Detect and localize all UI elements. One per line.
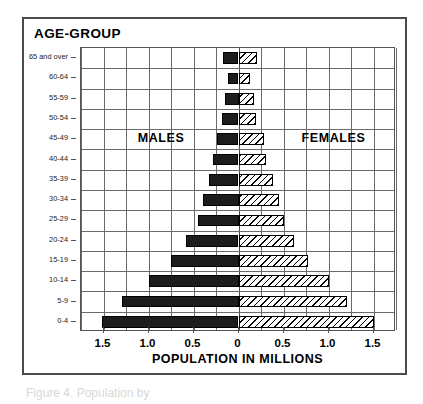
bar-female-60-64 bbox=[239, 73, 251, 85]
bar-male-35-39 bbox=[209, 174, 239, 186]
bar-male-25-29 bbox=[198, 215, 239, 227]
y-axis-label-5-9: 5-9 bbox=[57, 297, 68, 305]
y-axis-label-65-and-over: 65 and over bbox=[29, 53, 68, 61]
y-axis-age-group-labels: 65 and over60-6455-5950-5445-4940-4435-3… bbox=[24, 47, 76, 331]
bar-female-55-59 bbox=[239, 93, 254, 105]
bar-male-5-9 bbox=[122, 296, 239, 308]
y-axis-tick bbox=[71, 219, 76, 220]
y-axis-label-50-54: 50-54 bbox=[49, 114, 68, 122]
x-axis-label-3: 0 bbox=[234, 337, 240, 349]
figure-frame: AGE-GROUP 65 and over60-6455-5950-5445-4… bbox=[22, 17, 407, 375]
bar-female-45-49 bbox=[239, 133, 264, 145]
series-label-females: FEMALES bbox=[302, 131, 366, 145]
x-axis-tick-labels: 1.51.00.500.51.01.5 bbox=[80, 333, 395, 353]
y-axis-label-25-29: 25-29 bbox=[49, 215, 68, 223]
x-axis-label-5: 1.0 bbox=[320, 337, 336, 349]
y-axis-tick bbox=[71, 118, 76, 119]
cropped-caption: Figure 4. Population by bbox=[26, 386, 226, 400]
y-axis-label-0-4: 0-4 bbox=[57, 317, 68, 325]
bar-female-5-9 bbox=[239, 296, 348, 308]
y-axis-tick bbox=[71, 77, 76, 78]
y-axis-label-35-39: 35-39 bbox=[49, 175, 68, 183]
bar-male-10-14 bbox=[149, 275, 239, 287]
population-pyramid-plot: MALES FEMALES bbox=[80, 47, 395, 331]
bar-female-35-39 bbox=[239, 174, 273, 186]
y-axis-tick bbox=[71, 301, 76, 302]
bar-female-20-24 bbox=[239, 235, 295, 247]
x-axis-label-0: 1.5 bbox=[95, 337, 111, 349]
y-axis-tick bbox=[71, 179, 76, 180]
x-axis-tick bbox=[373, 327, 374, 333]
bar-male-50-54 bbox=[222, 113, 238, 125]
bar-male-30-34 bbox=[203, 194, 239, 206]
y-axis-label-10-14: 10-14 bbox=[49, 276, 68, 284]
x-axis-tick bbox=[193, 327, 194, 333]
y-axis-label-60-64: 60-64 bbox=[49, 73, 68, 81]
bar-male-55-59 bbox=[225, 93, 239, 105]
x-axis-tick bbox=[283, 327, 284, 333]
x-axis-label-2: 0.5 bbox=[185, 337, 201, 349]
bar-male-60-64 bbox=[228, 73, 239, 85]
bar-male-20-24 bbox=[186, 235, 238, 247]
bar-female-0-4 bbox=[239, 316, 375, 328]
y-axis-label-20-24: 20-24 bbox=[49, 236, 68, 244]
y-axis-tick bbox=[71, 57, 76, 58]
x-axis-tick bbox=[328, 327, 329, 333]
y-axis-tick bbox=[71, 280, 76, 281]
bar-female-10-14 bbox=[239, 275, 329, 287]
bar-male-40-44 bbox=[213, 154, 238, 166]
bar-layer bbox=[81, 48, 394, 330]
y-axis-label-40-44: 40-44 bbox=[49, 155, 68, 163]
bar-male-65-and-over bbox=[223, 52, 238, 64]
y-axis-tick bbox=[71, 98, 76, 99]
y-axis-tick bbox=[71, 321, 76, 322]
y-axis-tick bbox=[71, 199, 76, 200]
x-axis-title: POPULATION IN MILLIONS bbox=[80, 352, 395, 366]
bar-female-40-44 bbox=[239, 154, 267, 166]
vertical-gridline bbox=[396, 48, 397, 330]
y-axis-tick bbox=[71, 240, 76, 241]
y-axis-tick bbox=[71, 260, 76, 261]
bar-male-15-19 bbox=[171, 255, 239, 267]
x-axis-tick bbox=[148, 327, 149, 333]
y-axis-label-15-19: 15-19 bbox=[49, 256, 68, 264]
y-axis-tick bbox=[71, 138, 76, 139]
series-label-males: MALES bbox=[138, 131, 185, 145]
bar-female-25-29 bbox=[239, 215, 285, 227]
bar-female-15-19 bbox=[239, 255, 308, 267]
bar-male-45-49 bbox=[217, 133, 239, 145]
bar-male-0-4 bbox=[102, 316, 239, 328]
x-axis-tick bbox=[238, 327, 239, 333]
x-axis-label-4: 0.5 bbox=[275, 337, 291, 349]
x-axis-label-1: 1.0 bbox=[140, 337, 156, 349]
x-axis-tick bbox=[103, 327, 104, 333]
y-axis-label-30-34: 30-34 bbox=[49, 195, 68, 203]
bar-female-50-54 bbox=[239, 113, 256, 125]
bar-female-30-34 bbox=[239, 194, 280, 206]
y-axis-tick bbox=[71, 159, 76, 160]
y-axis-label-45-49: 45-49 bbox=[49, 134, 68, 142]
x-axis-label-6: 1.5 bbox=[365, 337, 381, 349]
y-axis-label-55-59: 55-59 bbox=[49, 94, 68, 102]
bar-female-65-and-over bbox=[239, 52, 258, 64]
page-title: AGE-GROUP bbox=[34, 26, 121, 41]
